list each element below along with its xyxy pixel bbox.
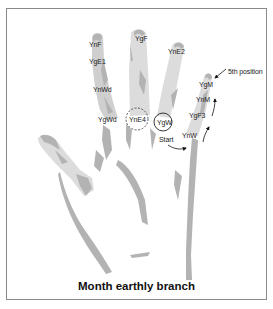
fifth-position-arrow [215, 69, 226, 78]
label-ygf3: YgF3 [189, 112, 205, 119]
middle-finger-shape [129, 30, 150, 117]
diagram-title: Month earthly branch [0, 280, 273, 292]
label-ynwd: YnWd [93, 86, 112, 93]
start-arrow [168, 145, 186, 149]
fifth-position-annotation: 5th position [228, 68, 263, 75]
label-ygm: YgM [199, 81, 213, 88]
label-yne2: YnE2 [168, 48, 185, 55]
label-yne4: YnE4 [129, 116, 146, 123]
palm-edge-shape [186, 138, 198, 280]
label-ynw: YnW [182, 132, 197, 139]
upward-arrow-upper [212, 99, 215, 116]
label-ygwd: YgWd [98, 116, 117, 123]
label-ygf: YgF [135, 35, 148, 42]
start-annotation: Start [159, 136, 173, 143]
label-ygw: YgW [157, 119, 172, 126]
hand-illustration [0, 0, 273, 309]
label-yge1: YgE1 [89, 58, 106, 65]
label-ynm: YnM [196, 96, 210, 103]
label-ynf: YnF [89, 41, 102, 48]
upward-arrow-lower [203, 127, 209, 142]
